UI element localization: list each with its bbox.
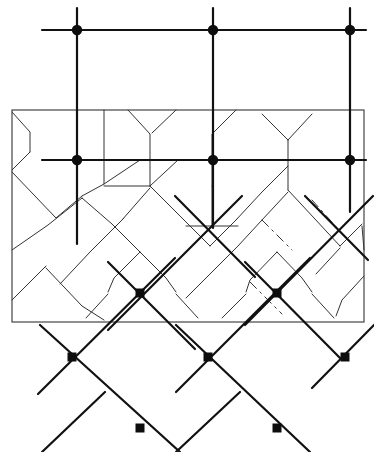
diagonal-lattice-node [341, 353, 350, 362]
diagonal-lattice-node [136, 289, 145, 298]
orthogonal-lattice-node [72, 25, 82, 35]
orthogonal-lattice-node [345, 25, 355, 35]
diagonal-lattice-node [273, 289, 282, 298]
diagonal-lattice-node [204, 353, 213, 362]
diagonal-lattice-node [136, 424, 145, 433]
orthogonal-lattice-node [345, 155, 355, 165]
orthogonal-lattice-node [72, 155, 82, 165]
diagonal-lattice-node [68, 353, 77, 362]
orthogonal-lattice-node [208, 25, 218, 35]
figure-root [0, 0, 374, 452]
lattice-transition-figure [0, 0, 374, 452]
orthogonal-lattice-node [208, 155, 218, 165]
diagonal-lattice-node [273, 424, 282, 433]
